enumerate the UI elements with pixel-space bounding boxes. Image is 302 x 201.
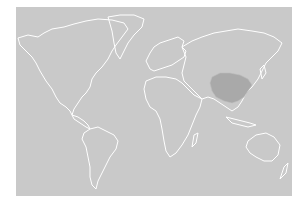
- madagascar: [192, 133, 198, 147]
- world-map: [16, 7, 292, 196]
- central-america: [72, 115, 90, 129]
- australia: [246, 133, 280, 161]
- china-highlight: [210, 73, 252, 103]
- south-america: [82, 127, 118, 189]
- japan: [260, 65, 266, 79]
- world-map-svg: [16, 7, 292, 196]
- new-zealand: [280, 163, 288, 179]
- southeast-asia-islands: [226, 117, 256, 127]
- north-america: [18, 19, 128, 115]
- greenland: [108, 15, 144, 59]
- europe: [146, 37, 186, 71]
